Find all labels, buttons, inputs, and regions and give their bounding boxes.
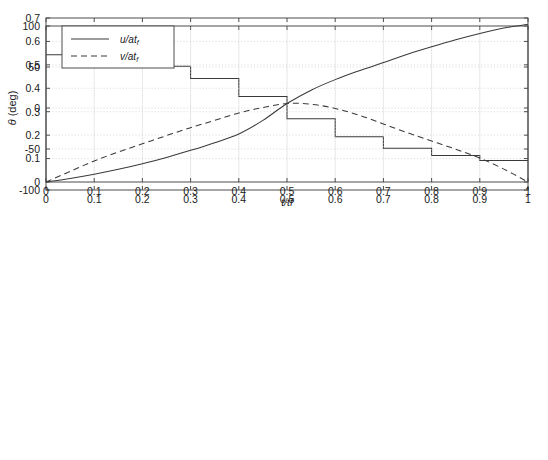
svg-text:0.6: 0.6 bbox=[25, 35, 40, 47]
velocity-series-2 bbox=[46, 103, 528, 182]
svg-text:0.7: 0.7 bbox=[25, 12, 40, 24]
velocity-xlabel: t/tf bbox=[281, 196, 294, 208]
svg-text:1: 1 bbox=[525, 185, 531, 197]
svg-text:0.8: 0.8 bbox=[424, 185, 439, 197]
svg-text:0.2: 0.2 bbox=[135, 185, 150, 197]
svg-text:0.3: 0.3 bbox=[25, 106, 40, 118]
svg-text:0.2: 0.2 bbox=[25, 129, 40, 141]
figure-caption-partial bbox=[0, 446, 548, 460]
svg-text:0.4: 0.4 bbox=[231, 185, 246, 197]
svg-text:0.5: 0.5 bbox=[25, 59, 40, 71]
figure-container: 00.10.20.30.40.50.60.70.80.91-100-500501… bbox=[0, 0, 548, 460]
svg-text:0.3: 0.3 bbox=[183, 185, 198, 197]
velocity-chart-svg: 00.10.20.30.40.50.60.70.80.9100.10.20.30… bbox=[0, 0, 548, 225]
svg-text:0.6: 0.6 bbox=[328, 185, 343, 197]
svg-text:0: 0 bbox=[43, 185, 49, 197]
svg-text:0.4: 0.4 bbox=[25, 82, 40, 94]
svg-text:0: 0 bbox=[34, 176, 40, 188]
svg-text:0.7: 0.7 bbox=[376, 185, 391, 197]
velocity-legend: u/atfv/atf bbox=[62, 26, 174, 68]
svg-text:0.1: 0.1 bbox=[87, 185, 102, 197]
velocity-axes-panel: 00.10.20.30.40.50.60.70.80.9100.10.20.30… bbox=[0, 0, 548, 225]
svg-text:0.1: 0.1 bbox=[25, 152, 40, 164]
svg-text:0.9: 0.9 bbox=[472, 185, 487, 197]
